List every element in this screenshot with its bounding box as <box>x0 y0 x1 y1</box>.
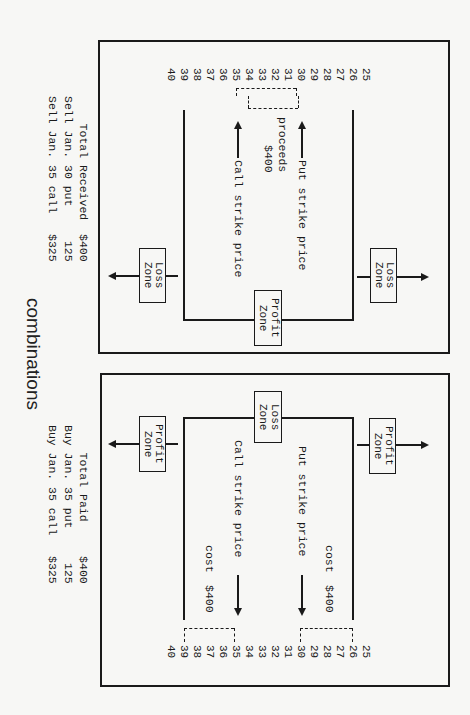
zone-label: LossZone <box>256 404 279 430</box>
price-tick: 30 <box>295 68 306 81</box>
price-tick: 29 <box>308 645 319 658</box>
short-proceeds-label: proceeds <box>276 117 288 172</box>
long-payoff-left-leg <box>183 417 185 620</box>
long-upper-profit-arrow-icon <box>108 440 116 448</box>
short-profit-zone-box: ProfitZone <box>254 290 282 346</box>
short-lower-loss-zone-box: LossZone <box>370 248 397 303</box>
price-tick: 33 <box>256 68 267 81</box>
long-upper-cost-label: cost <box>203 545 215 573</box>
price-tick: 36 <box>217 68 228 81</box>
long-lower-cost-bracket <box>300 628 352 629</box>
price-tick: 31 <box>282 645 293 658</box>
short-proceeds-bracket-left <box>236 88 237 96</box>
price-tick: 26 <box>347 645 358 658</box>
short-combo-header-line1: Sell Jan. 35 call $325 <box>46 96 58 262</box>
long-combo-header-line2: Buy Jan. 35 put 125 <box>62 425 74 584</box>
long-lower-profit-arrow-icon <box>421 441 429 449</box>
long-combo-header-line3: Total Paid $400 <box>77 425 89 584</box>
short-lower-loss-arrow-icon <box>421 273 429 281</box>
price-tick: 34 <box>243 68 254 81</box>
long-put-arrow-icon <box>298 608 306 616</box>
short-proceeds-bracket-right <box>296 88 297 96</box>
price-tick: 38 <box>191 68 202 81</box>
price-tick: 26 <box>347 68 358 81</box>
short-call-arrow-shaft <box>237 128 239 158</box>
long-lower-profit-zone-box: ProfitZone <box>369 418 396 474</box>
long-lower-cost-bracket-l <box>300 628 301 642</box>
price-tick: 34 <box>243 645 254 658</box>
price-tick: 37 <box>204 68 215 81</box>
zone-label: ProfitZone <box>371 426 394 466</box>
long-upper-cost-bracket-r <box>234 628 235 642</box>
short-upper-loss-arrow-icon <box>108 272 116 280</box>
price-tick: 30 <box>295 645 306 658</box>
short-combo-header-line3: Total Received $400 <box>77 96 89 262</box>
price-tick: 35 <box>230 645 241 658</box>
price-tick: 36 <box>217 645 228 658</box>
price-tick: 27 <box>334 645 345 658</box>
long-lower-cost-bracket-r <box>352 628 353 642</box>
short-put-arrow-icon <box>298 121 306 129</box>
short-combo-header-line2: Sell Jan. 30 put 125 <box>62 96 74 262</box>
long-lower-cost-amount: $400 <box>323 585 335 613</box>
price-tick: 32 <box>269 68 280 81</box>
price-tick: 40 <box>165 68 176 81</box>
short-proceeds-bracket-bottom <box>248 108 298 109</box>
price-tick: 39 <box>178 68 189 81</box>
short-payoff-left-leg <box>183 110 185 321</box>
short-payoff-right-leg <box>352 110 354 321</box>
short-call-strike-label: Call strike price <box>232 160 244 277</box>
price-tick: 39 <box>178 645 189 658</box>
price-tick: 27 <box>334 68 345 81</box>
short-put-arrow-shaft <box>301 128 303 158</box>
short-proceeds-bracket-top <box>236 88 296 89</box>
short-proceeds-amount: $400 <box>262 145 274 173</box>
zone-label: ProfitZone <box>141 424 164 464</box>
price-tick: 28 <box>321 68 332 81</box>
price-tick: 31 <box>282 68 293 81</box>
price-tick: 35 <box>230 68 241 81</box>
long-call-arrow-shaft <box>237 575 239 610</box>
price-tick: 25 <box>360 645 371 658</box>
price-tick: 28 <box>321 645 332 658</box>
zone-label: LossZone <box>141 262 164 288</box>
long-call-arrow-icon <box>234 608 242 616</box>
long-upper-cost-bracket <box>184 628 234 629</box>
long-lower-cost-label: cost <box>323 545 335 573</box>
long-put-arrow-shaft <box>301 575 303 610</box>
zone-label: ProfitZone <box>256 298 279 338</box>
short-upper-loss-zone-box: LossZone <box>139 248 166 303</box>
long-loss-zone-box: LossZone <box>254 391 282 443</box>
long-upper-profit-zone-box: ProfitZone <box>139 416 166 472</box>
price-tick: 25 <box>360 68 371 81</box>
short-put-strike-label: Put strike price <box>296 160 308 270</box>
price-tick: 38 <box>191 645 202 658</box>
long-upper-cost-amount: $400 <box>203 585 215 613</box>
short-call-arrow-icon <box>234 121 242 129</box>
price-tick: 40 <box>165 645 176 658</box>
long-put-strike-label: Put strike price <box>296 446 308 556</box>
long-upper-cost-bracket-l <box>184 628 185 642</box>
price-tick: 37 <box>204 645 215 658</box>
long-payoff-right-leg <box>352 417 354 620</box>
price-tick: 33 <box>256 645 267 658</box>
short-proceeds-bracket-left2 <box>248 96 249 108</box>
zone-label: LossZone <box>372 262 395 288</box>
price-tick: 32 <box>269 645 280 658</box>
short-proceeds-bracket-right2 <box>298 96 299 108</box>
price-tick: 29 <box>308 68 319 81</box>
long-call-strike-label: Call strike price <box>232 440 244 557</box>
long-combo-header-line1: Buy Jan. 35 call $325 <box>46 425 58 584</box>
page-title: combinations <box>24 298 43 410</box>
